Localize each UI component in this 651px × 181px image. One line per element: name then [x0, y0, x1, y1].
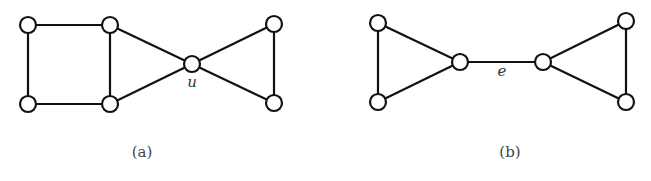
edge-label-e: e [498, 62, 507, 80]
vertex-a7 [266, 95, 282, 111]
vertex-b2 [370, 94, 386, 110]
vertex-a6 [266, 16, 282, 32]
vertex-a4 [102, 96, 118, 112]
vertex-b4 [535, 54, 551, 70]
edge-b4-b5 [543, 21, 626, 62]
edge-b4-b6 [543, 62, 626, 102]
caption-b: (b) [499, 143, 520, 161]
vertex-b3 [452, 54, 468, 70]
vertex-b6 [618, 94, 634, 110]
vertex-b1 [370, 15, 386, 31]
graph-figure: u e (a) (b) [0, 0, 651, 181]
caption-a: (a) [132, 143, 153, 161]
edge-a4-u [110, 64, 192, 104]
edge-b1-b3 [378, 23, 460, 62]
vertex-u [184, 56, 200, 72]
vertex-a1 [20, 17, 36, 33]
edge-u-a7 [192, 64, 274, 103]
vertex-a2 [102, 17, 118, 33]
vertex-a3 [20, 96, 36, 112]
vertex-b5 [618, 13, 634, 29]
nodes [20, 13, 634, 112]
edge-b2-b3 [378, 62, 460, 102]
vertex-label-u: u [187, 73, 197, 91]
edge-u-a6 [192, 24, 274, 64]
edge-a2-u [110, 25, 192, 64]
